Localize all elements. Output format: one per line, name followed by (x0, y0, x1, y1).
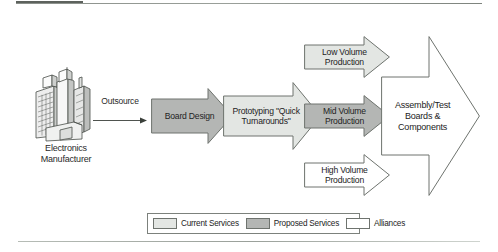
node-prototyping-label-line2: Turnarounds" (242, 116, 291, 126)
legend-swatch-proposed-services (246, 218, 270, 229)
node-low-volume-production-label-line1: Low Volume (322, 47, 367, 57)
node-assembly-test-label-line1: Assembly/Test (395, 100, 450, 110)
node-assembly-test-label-line2: Boards & Components (398, 111, 447, 132)
legend: Current Services Proposed Services Allia… (147, 213, 360, 234)
legend-item-current-services: Current Services (153, 218, 239, 229)
node-low-volume-production-label-line2: Production (325, 57, 364, 67)
node-high-volume-production-label: High Volume Production (321, 165, 373, 185)
legend-label-current-services: Current Services (181, 219, 239, 228)
right-arrow-icon (92, 111, 148, 120)
node-low-volume-production-label: Low Volume Production (322, 47, 372, 67)
node-prototyping[interactable]: Prototyping "Quick Turnarounds" (223, 82, 321, 150)
node-mid-volume-production-label: Mid Volume Production (323, 106, 371, 126)
node-board-design-label: Board Design (165, 111, 220, 121)
node-board-design[interactable]: Board Design (151, 88, 233, 144)
node-high-volume-production-label-line2: Production (325, 175, 364, 185)
legend-label-proposed-services: Proposed Services (274, 219, 339, 228)
node-high-volume-production-label-line1: High Volume (321, 165, 368, 175)
legend-swatch-alliances (346, 218, 370, 229)
legend-item-proposed-services: Proposed Services (246, 218, 339, 229)
legend-item-alliances: Alliances (346, 218, 405, 229)
legend-swatch-current-services (153, 218, 177, 229)
node-mid-volume-production-label-line2: Production (325, 116, 364, 126)
legend-label-alliances: Alliances (374, 219, 405, 228)
node-mid-volume-production[interactable]: Mid Volume Production (304, 95, 390, 137)
diagram-frame: Electronics Manufacturer Outsource Board… (8, 12, 490, 234)
page-rule-bottom (18, 241, 480, 242)
node-mid-volume-production-label-line1: Mid Volume (323, 106, 366, 116)
node-high-volume-production[interactable]: High Volume Production (304, 154, 390, 196)
source-entity-label: Electronics Manufacturer (14, 143, 118, 164)
node-prototyping-label-line1: Prototyping "Quick (232, 106, 299, 116)
page-rule-top (16, 3, 482, 4)
outsource-label: Outsource (92, 96, 148, 106)
node-assembly-test[interactable]: Assembly/Test Boards & Components (381, 36, 480, 196)
node-prototyping-label: Prototyping "Quick Turnarounds" (232, 106, 311, 126)
node-assembly-test-label: Assembly/Test Boards & Components (381, 100, 480, 133)
node-low-volume-production[interactable]: Low Volume Production (304, 36, 390, 78)
diagram-page: Electronics Manufacturer Outsource Board… (0, 0, 498, 252)
source-entity-label-line2: Manufacturer (41, 154, 92, 164)
source-entity-label-line1: Electronics (45, 143, 87, 153)
